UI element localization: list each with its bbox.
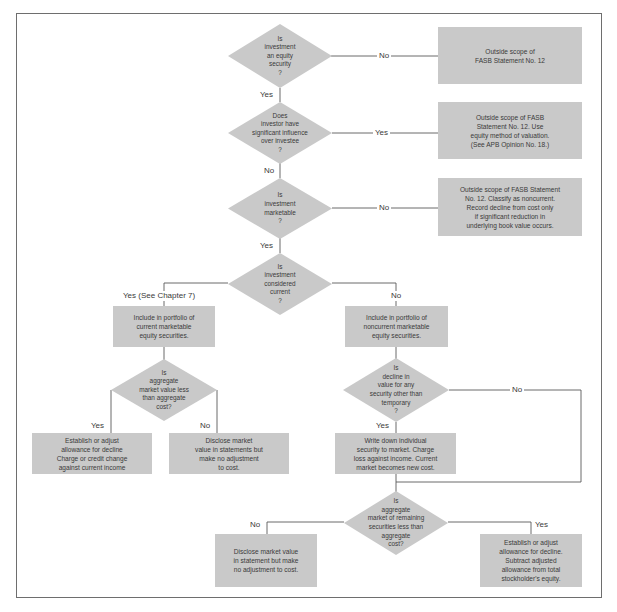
action-disclose-market-noncurrent: Disclose market value in statement but m…	[215, 534, 317, 587]
action-classify-noncurrent: Outside scope of FASB Statement No. 12. …	[438, 178, 582, 236]
edge-label-d6-yes: Yes	[374, 421, 391, 431]
action-establish-allowance-income: Establish or adjust allowance for declin…	[32, 433, 152, 474]
edge-label-d1-no: No	[377, 51, 391, 61]
edge-label-d3-no: No	[377, 203, 391, 213]
edge-label-d4-no: No	[389, 291, 403, 301]
edge-label-d7-no: No	[248, 520, 262, 530]
action-include-current: Include in portfolio of current marketab…	[113, 306, 215, 347]
edge-label-d2-no: No	[262, 166, 276, 176]
action-establish-allowance-equity: Establish or adjust allowance for declin…	[480, 534, 582, 587]
decision-text: Is decline in value for any security oth…	[370, 364, 423, 416]
edge-label-d5-no: No	[198, 421, 212, 431]
decision-text: Is investment marketable ?	[264, 191, 296, 225]
edge-label-d3-yes: Yes	[258, 241, 275, 251]
decision-text: Is aggregate market value less than aggr…	[139, 369, 189, 412]
edge-label-d2-yes: Yes	[373, 128, 390, 138]
decision-text: Is investment considered current ?	[264, 263, 295, 306]
action-disclose-market-current: Disclose market value in statements but …	[169, 433, 289, 474]
action-include-noncurrent: Include in portfolio of noncurrent marke…	[345, 306, 448, 347]
decision-text: Does investor have significant influence…	[252, 112, 308, 155]
decision-text: Is investment an equity security ?	[265, 35, 296, 78]
edge-label-d5-yes: Yes	[89, 421, 106, 431]
decision-marketable: Is investment marketable ?	[228, 178, 332, 239]
action-outside-scope: Outside scope of FASB Statement No. 12	[438, 27, 582, 84]
action-write-down: Write down individual security to market…	[335, 433, 456, 474]
action-equity-method: Outside scope of FASB Statement No. 12. …	[438, 102, 582, 159]
decision-aggregate-market-value: Is aggregate market value less than aggr…	[111, 359, 217, 421]
decision-text: Is aggregate market of remaining securit…	[368, 497, 424, 549]
edge-label-d6-no: No	[510, 385, 524, 395]
decision-equity-security: Is investment an equity security ?	[228, 24, 332, 88]
edge-label-d1-yes: Yes	[258, 90, 275, 100]
edge-label-d7-yes: Yes	[533, 520, 550, 530]
decision-considered-current: Is investment considered current ?	[228, 253, 332, 315]
decision-significant-influence: Does investor have significant influence…	[228, 102, 332, 164]
decision-decline-temporary: Is decline in value for any security oth…	[343, 358, 449, 422]
edge-label-d4-yes: Yes (See Chapter 7)	[121, 291, 197, 301]
decision-aggregate-remaining: Is aggregate market of remaining securit…	[344, 491, 448, 555]
